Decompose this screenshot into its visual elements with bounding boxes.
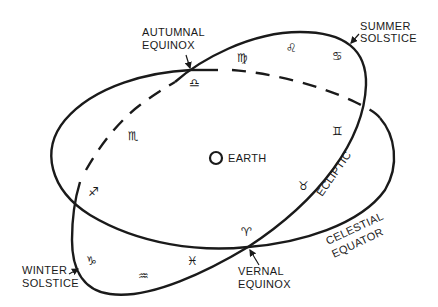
ecliptic-label: ECLIPTIC [314, 149, 354, 198]
ecliptic-back [86, 82, 175, 170]
summer-solstice-arrow [351, 34, 359, 43]
earth-icon [210, 152, 222, 164]
vernal-equinox-arrow [250, 250, 259, 265]
aries-icon: ♈ [241, 225, 252, 239]
libra-icon: ♎ [189, 76, 200, 90]
taurus-icon: ♉ [298, 179, 309, 193]
scorpio-icon: ♏ [128, 129, 139, 143]
cancer-icon: ♋ [332, 49, 343, 63]
vernal-equinox-label-1: VERNAL [238, 265, 284, 277]
winter-solstice-label-1: WINTER [22, 264, 67, 276]
aquarius-icon: ♒ [138, 269, 149, 283]
autumnal-equinox-label-2: EQUINOX [142, 39, 195, 51]
summer-solstice-label-1: SUMMER [360, 20, 411, 32]
earth-label: EARTH [228, 152, 267, 164]
leo-icon: ♌ [286, 41, 297, 55]
vernal-equinox-label-2: EQUINOX [238, 278, 291, 290]
gemini-icon: ♊ [332, 124, 343, 138]
capricorn-icon: ♑ [86, 254, 97, 268]
winter-solstice-label-2: SOLSTICE [22, 277, 79, 289]
autumnal-equinox-label-1: AUTUMNAL [142, 26, 205, 38]
celestial-equator-back [232, 70, 380, 118]
virgo-icon: ♍ [237, 51, 248, 65]
celestial-diagram: EARTH AUTUMNAL EQUINOX SUMMER SOLSTICE V… [0, 0, 438, 307]
summer-solstice-label-2: SOLSTICE [360, 32, 417, 44]
pisces-icon: ♓ [187, 254, 198, 268]
sagittarius-icon: ♐ [88, 185, 99, 199]
autumnal-equinox-arrow [186, 55, 190, 68]
